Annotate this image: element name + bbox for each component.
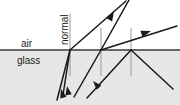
air-label: air [21, 38, 33, 49]
glass-label: glass [17, 55, 40, 66]
normal-label: normal [59, 14, 70, 45]
diagram-canvas: air glass normal [0, 0, 180, 105]
optics-diagram: air glass normal [0, 0, 180, 105]
